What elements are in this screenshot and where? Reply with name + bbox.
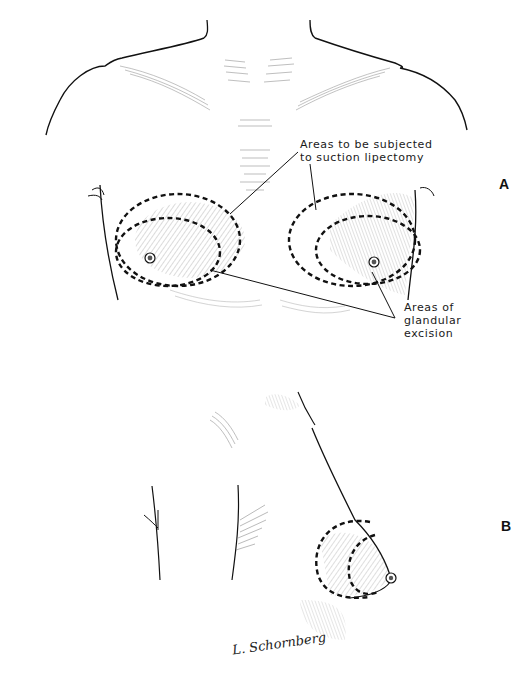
left-axilla	[88, 188, 104, 200]
panel-a-drawing	[46, 20, 467, 318]
shoulder-hatching	[210, 412, 238, 448]
chin-hatching	[265, 394, 300, 410]
suction-leader-right	[310, 164, 316, 210]
panel-label-a: A	[499, 176, 509, 192]
suction-leader-left	[230, 152, 298, 214]
axilla-hatching	[236, 505, 268, 550]
panel-label-b: B	[501, 518, 511, 534]
suction-lipectomy-label: Areas to be subjected to suction lipecto…	[300, 138, 433, 164]
sternum-hatching	[224, 58, 294, 190]
neck-front-outline	[298, 392, 315, 425]
panel-b-drawing	[144, 392, 396, 640]
back-line	[232, 485, 239, 580]
glandular-excision-label: Areas of glandular excision	[404, 301, 461, 340]
figure-caption	[0, 672, 530, 681]
neck-left-outline	[204, 20, 208, 38]
breast-b-shading	[320, 533, 390, 596]
arm-line-left	[152, 486, 160, 580]
left-torso-side	[100, 185, 118, 300]
lower-chest-hatching	[170, 290, 350, 313]
right-axilla	[420, 187, 434, 196]
medical-illustration	[0, 0, 530, 681]
right-shoulder-outline	[315, 38, 467, 130]
neck-right-outline	[310, 20, 315, 38]
clavicle-hatching	[120, 66, 390, 110]
